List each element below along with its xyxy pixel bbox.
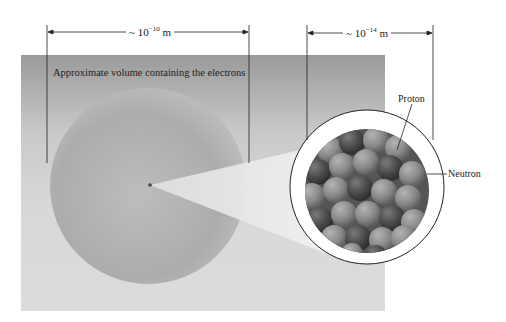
neutron-label: Neutron [448,169,481,179]
nucleus-dot [148,183,152,187]
nucleus-scale-label: ~ 10−14 m [343,27,391,39]
atom-diagram [0,0,506,322]
atom-scale-label: ~ 10−10 m [126,26,174,38]
proton-label: Proton [398,94,425,104]
electron-volume-label: Approximate volume containing the electr… [53,68,245,79]
